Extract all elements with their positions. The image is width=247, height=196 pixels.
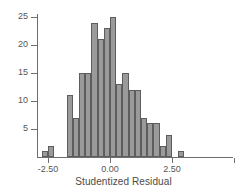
histogram-bar [48, 146, 54, 157]
histogram-figure: 510152025 -2.500.002.50 Studentized Resi… [0, 0, 247, 196]
histogram-bar [166, 135, 172, 157]
x-axis-title: Studentized Residual [0, 176, 247, 187]
plot-area: 510152025 -2.500.002.50 [0, 0, 247, 196]
histogram-bars [0, 0, 247, 196]
histogram-bar [178, 151, 184, 157]
